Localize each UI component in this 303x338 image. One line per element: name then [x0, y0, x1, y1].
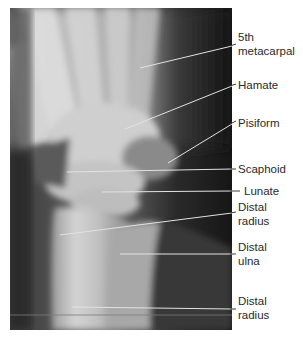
- label-fifth-metacarpal: 5th metacarpal: [238, 30, 295, 58]
- label-distal-radius-lower: Distal radius: [238, 294, 269, 322]
- label-line: Distal: [238, 200, 269, 214]
- label-lunate: Lunate: [244, 184, 279, 198]
- label-hamate: Hamate: [238, 78, 278, 92]
- label-line: Distal: [238, 240, 267, 254]
- label-line: Lunate: [244, 184, 279, 198]
- label-line: Scaphoid: [238, 162, 286, 176]
- label-line: ulna: [238, 254, 267, 268]
- label-line: Hamate: [238, 78, 278, 92]
- xray-graphic: [10, 8, 232, 330]
- label-scaphoid: Scaphoid: [238, 162, 286, 176]
- label-distal-ulna: Distal ulna: [238, 240, 267, 268]
- label-line: Pisiform: [238, 116, 280, 130]
- label-line: radius: [238, 308, 269, 322]
- label-line: radius: [238, 214, 269, 228]
- label-distal-radius-upper: Distal radius: [238, 200, 269, 228]
- label-pisiform: Pisiform: [238, 116, 280, 130]
- label-line: 5th: [238, 30, 295, 44]
- wrist-xray-image: [10, 8, 232, 330]
- label-line: metacarpal: [238, 44, 295, 58]
- label-line: Distal: [238, 294, 269, 308]
